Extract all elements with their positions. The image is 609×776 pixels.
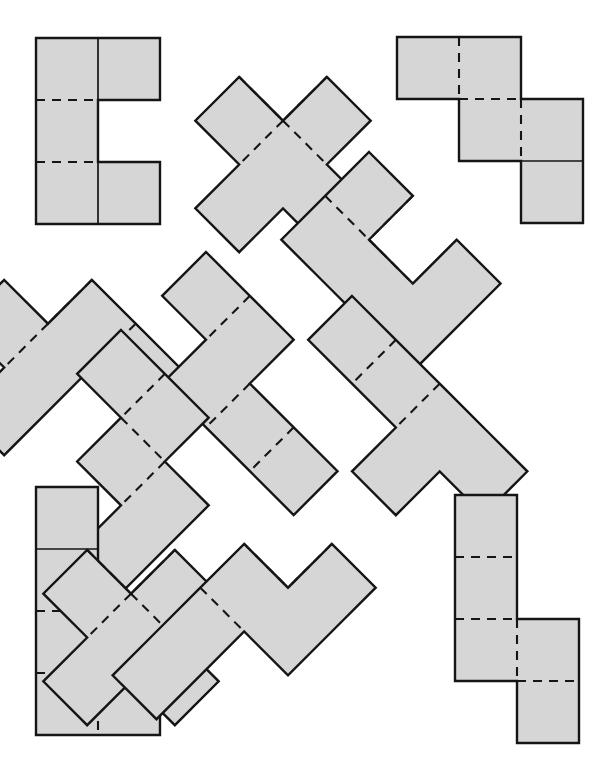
polyomino-figure (0, 0, 609, 776)
polyomino-canvas (0, 0, 609, 776)
